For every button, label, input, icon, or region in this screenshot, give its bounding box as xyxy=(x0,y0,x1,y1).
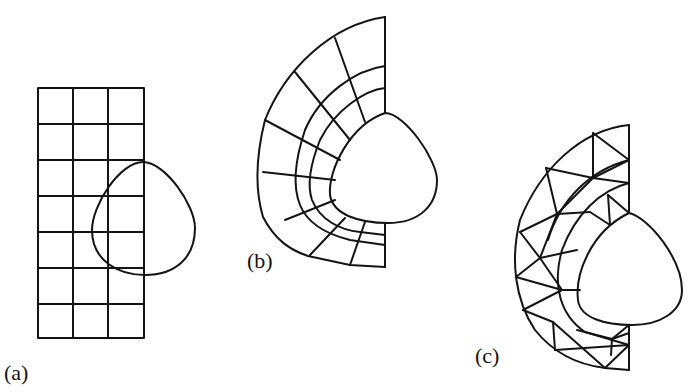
panel-b-mesh xyxy=(257,17,437,267)
panel-b-label: (b) xyxy=(247,248,273,274)
panel-a-grid xyxy=(38,88,195,338)
panel-a-label: (a) xyxy=(4,360,28,386)
panel-c-mesh xyxy=(515,125,682,370)
mesh-figure xyxy=(0,0,700,392)
panel-c-label: (c) xyxy=(475,343,499,369)
